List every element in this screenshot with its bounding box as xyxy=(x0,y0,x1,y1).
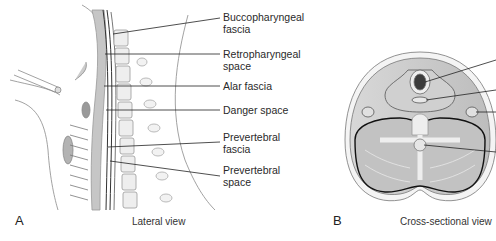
cross-section-illustration xyxy=(345,52,496,201)
label-danger-space: Danger space xyxy=(223,104,288,116)
label-prevertebral-space: Prevertebral space xyxy=(223,164,280,188)
caption-cross-sectional-view: Cross-sectional view xyxy=(400,216,492,227)
label-buccopharyngeal-fascia: Buccopharyngeal fascia xyxy=(223,11,304,35)
label-retropharyngeal-space: Retropharyngeal space xyxy=(223,48,301,72)
panel-letter-b: B xyxy=(333,213,342,228)
anatomy-figure xyxy=(0,0,496,241)
panel-letter-a: A xyxy=(15,213,24,228)
label-alar-fascia: Alar fascia xyxy=(223,80,272,92)
lateral-view-illustration xyxy=(10,5,215,210)
caption-lateral-view: Lateral view xyxy=(132,216,185,227)
label-prevertebral-fascia: Prevertebral fascia xyxy=(223,131,280,155)
